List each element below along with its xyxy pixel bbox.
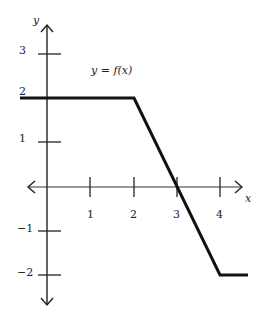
y-ticks	[38, 54, 61, 275]
x-axis-label: x	[245, 192, 252, 205]
x-tick-label-2: 2	[130, 208, 137, 221]
y-tick-label-minus-1: −1	[17, 222, 33, 235]
function-label: y = f(x)	[90, 64, 132, 77]
x-tick-label-1: 1	[87, 208, 94, 221]
x-tick-label-4: 4	[216, 208, 223, 221]
y-axis	[41, 25, 53, 305]
y-tick-label-1: 1	[19, 132, 26, 145]
y-tick-label-2: 2	[19, 85, 26, 98]
y-tick-label-minus-2: −2	[17, 266, 33, 279]
x-tick-label-3: 3	[173, 208, 180, 221]
y-axis-label: y	[32, 14, 40, 27]
x-axis	[28, 181, 242, 193]
y-tick-label-3: 3	[19, 44, 26, 57]
function-graph: y x y = f(x) 1 2 3 4 3 2 1 −1 −2	[0, 0, 266, 321]
